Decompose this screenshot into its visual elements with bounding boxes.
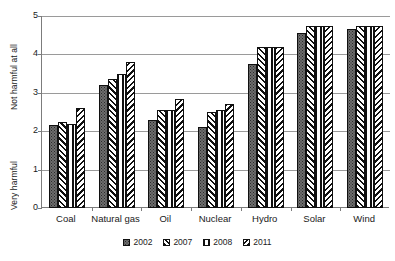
- bar-2011-oil: [175, 99, 184, 208]
- bar-group: [42, 16, 92, 208]
- x-tickmark: [241, 207, 242, 211]
- bar-2007-wind: [356, 26, 365, 208]
- legend-swatch-icon: [243, 239, 250, 246]
- bar-group: [92, 16, 142, 208]
- legend-item-2008: 2008: [203, 238, 232, 247]
- legend-label: 2007: [173, 238, 192, 247]
- bar-group: [241, 16, 291, 208]
- legend-item-2011: 2011: [243, 238, 271, 247]
- x-category-label: Solar: [290, 212, 340, 230]
- x-category-label: Nuclear: [190, 212, 240, 230]
- x-category-label: Coal: [41, 212, 91, 230]
- bar-2008-hydro: [266, 47, 275, 208]
- x-tickmark: [141, 207, 142, 211]
- x-category-label: Oil: [140, 212, 190, 230]
- legend-swatch-icon: [203, 239, 210, 246]
- bar-2008-wind: [365, 26, 374, 208]
- x-axis-category-labels: CoalNatural gasOilNuclearHydroSolarWind: [41, 212, 389, 230]
- x-tickmark: [191, 207, 192, 211]
- legend-label: 2011: [253, 238, 271, 247]
- bar-2002-natural-gas: [99, 85, 108, 208]
- bar-2002-oil: [148, 120, 157, 208]
- bar-chart: Not harmful at all Very harmful 012345 C…: [0, 0, 395, 261]
- bar-2011-nuclear: [225, 104, 234, 208]
- legend-swatch-icon: [123, 239, 130, 246]
- bar-2011-wind: [374, 26, 383, 208]
- bar-2007-hydro: [257, 47, 266, 208]
- x-category-label: Natural gas: [91, 212, 141, 230]
- x-tickmark: [92, 207, 93, 211]
- bar-2002-nuclear: [198, 127, 207, 208]
- bar-2007-nuclear: [207, 112, 216, 208]
- y-tickmark: [38, 208, 42, 209]
- legend-label: 2008: [213, 238, 232, 247]
- bar-2011-solar: [324, 26, 333, 208]
- y-tick-label: 0: [8, 203, 38, 212]
- y-axis-tick-labels: 012345: [4, 0, 38, 261]
- x-tickmark: [340, 207, 341, 211]
- x-category-label: Hydro: [240, 212, 290, 230]
- legend: 2002200720082011: [0, 238, 395, 247]
- bar-2011-coal: [76, 108, 85, 208]
- bar-group: [191, 16, 241, 208]
- bar-2002-hydro: [248, 64, 257, 208]
- bar-2002-coal: [49, 125, 58, 208]
- bar-2002-solar: [297, 33, 306, 208]
- bar-2011-natural-gas: [126, 62, 135, 208]
- bar-group: [340, 16, 390, 208]
- y-tick-label: 3: [8, 88, 38, 97]
- bar-2008-nuclear: [216, 110, 225, 208]
- legend-item-2007: 2007: [163, 238, 192, 247]
- bar-2002-wind: [347, 29, 356, 208]
- bar-2007-solar: [306, 26, 315, 208]
- legend-item-2002: 2002: [123, 238, 152, 247]
- y-tick-label: 2: [8, 126, 38, 135]
- y-tick-label: 4: [8, 49, 38, 58]
- y-tick-label: 1: [8, 165, 38, 174]
- bar-2008-solar: [315, 26, 324, 208]
- y-tick-label: 5: [8, 11, 38, 20]
- bar-2007-oil: [157, 110, 166, 208]
- bar-2008-oil: [166, 110, 175, 208]
- bar-2007-coal: [58, 122, 67, 208]
- bar-group: [291, 16, 341, 208]
- bar-group: [141, 16, 191, 208]
- x-tickmark: [291, 207, 292, 211]
- bar-2011-hydro: [275, 47, 284, 208]
- legend-swatch-icon: [163, 239, 170, 246]
- bar-groups: [42, 16, 390, 208]
- bar-2007-natural-gas: [108, 79, 117, 208]
- x-category-label: Wind: [339, 212, 389, 230]
- bar-2008-coal: [67, 124, 76, 208]
- legend-label: 2002: [133, 238, 152, 247]
- plot-area: [41, 16, 389, 208]
- bar-2008-natural-gas: [117, 74, 126, 208]
